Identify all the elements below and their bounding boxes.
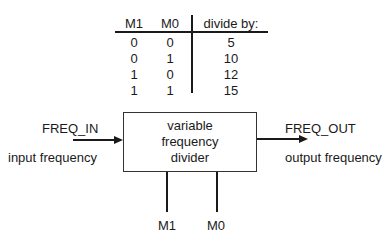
- table-cell-m1: 0: [119, 51, 149, 66]
- input-arrowhead-icon: [114, 136, 123, 144]
- m0-control-line: [216, 172, 218, 212]
- input-arrow-shaft: [73, 139, 115, 141]
- table-cell-divisor: 12: [196, 67, 266, 82]
- table-cell-m1: 0: [119, 35, 149, 50]
- m0-control-label: M0: [207, 218, 225, 233]
- output-signal-label: FREQ_OUT: [285, 121, 356, 136]
- block-label-line-3: divider: [171, 150, 209, 166]
- block-label-line-2: frequency: [161, 134, 218, 150]
- table-cell-m0: 0: [155, 35, 185, 50]
- output-arrow-shaft: [257, 138, 300, 140]
- table-cell-divisor: 10: [196, 51, 266, 66]
- frequency-divider-block: variable frequency divider: [123, 112, 257, 172]
- table-cell-m0: 0: [155, 67, 185, 82]
- output-description: output frequency: [285, 150, 382, 165]
- table-cell-m0: 1: [155, 51, 185, 66]
- m1-control-label: M1: [158, 218, 176, 233]
- table-cell-m1: 1: [119, 83, 149, 98]
- block-label-line-1: variable: [167, 118, 213, 134]
- input-signal-label: FREQ_IN: [42, 121, 98, 136]
- table-cell-divisor: 5: [196, 35, 266, 50]
- m1-control-line: [166, 172, 168, 212]
- input-description: input frequency: [8, 150, 97, 165]
- table-header-divide-by: divide by:: [196, 16, 266, 31]
- table-cell-divisor: 15: [196, 83, 266, 98]
- table-cell-m1: 1: [119, 67, 149, 82]
- table-cell-m0: 1: [155, 83, 185, 98]
- table-header-m1: M1: [119, 16, 149, 31]
- table-column-divider: [191, 15, 193, 93]
- table-header-m0: M0: [155, 16, 185, 31]
- output-arrowhead-icon: [299, 135, 308, 143]
